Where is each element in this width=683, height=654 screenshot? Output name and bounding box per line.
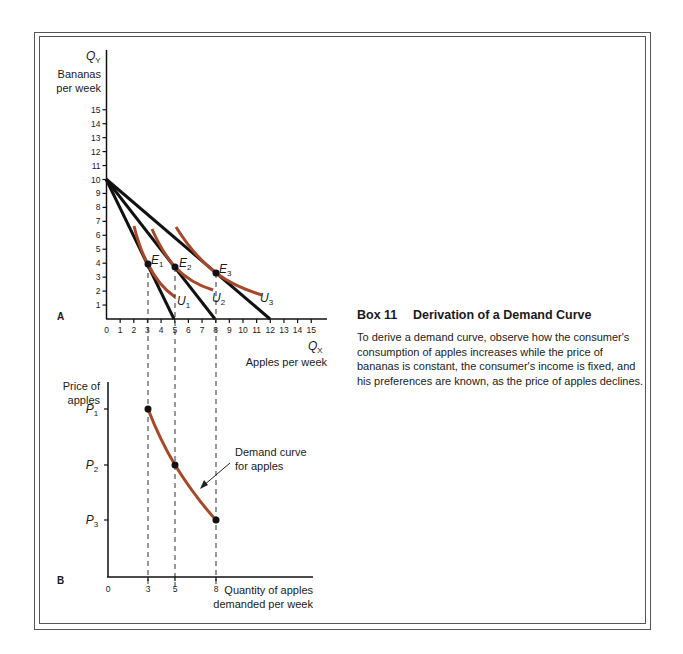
x-axis-label: Apples per week [246, 356, 328, 368]
label-e2: E2 [179, 256, 192, 272]
label-u3: U3 [260, 291, 274, 307]
panel-a-label: A [57, 311, 64, 322]
x-tick-label: 2 [131, 325, 136, 335]
label-u1: U1 [177, 294, 191, 310]
label-q3: 3 [146, 584, 151, 594]
caption-title: Box 11Derivation of a Demand Curve [357, 308, 647, 322]
label-q0: 0 [106, 584, 111, 594]
x-tick-label: 12 [266, 325, 276, 335]
y-tick-label: 7 [96, 216, 101, 226]
y-tick-label: 8 [96, 202, 101, 212]
x-axis-symbol: QX [308, 339, 323, 355]
price-axis-label-line1: Price of [63, 380, 101, 392]
y-tick-label: 4 [96, 258, 101, 268]
x-tick-label: 7 [200, 325, 205, 335]
label-q5: 5 [173, 584, 178, 594]
y-tick-label: 1 [96, 300, 101, 310]
y-ticks: 123456789101112131415 [91, 105, 106, 310]
y-tick-label: 10 [91, 175, 101, 185]
x-tick-label: 9 [227, 325, 232, 335]
quantity-axis-label-line2: demanded per week [213, 598, 313, 610]
label-u2: U2 [212, 291, 226, 307]
y-axis-label-line2: per week [56, 82, 101, 94]
y-tick-label: 13 [91, 133, 101, 143]
x-tick-label: 14 [293, 325, 303, 335]
y-tick-label: 2 [96, 286, 101, 296]
caption-body: To derive a demand curve, observe how th… [357, 330, 647, 388]
x-tick-label: 1 [118, 325, 123, 335]
label-p3: P3 [86, 513, 99, 529]
annotation-line2: for apples [235, 460, 284, 472]
x-tick-label: 13 [279, 325, 289, 335]
panel-a: QY Bananas per week 12345678910111213141… [56, 49, 327, 588]
annotation-line1: Demand curve [235, 446, 307, 458]
x-tick-label: 0 [104, 325, 109, 335]
caption-box: Box 11Derivation of a Demand Curve To de… [357, 308, 647, 388]
budget-line-3 [106, 179, 270, 319]
label-e1: E1 [151, 253, 164, 269]
demand-point-2 [172, 462, 179, 469]
y-tick-label: 15 [91, 105, 101, 115]
demand-point-1 [145, 406, 152, 413]
y-axis-symbol: QY [86, 49, 101, 65]
price-axis-label-line2: apples [68, 394, 101, 406]
label-e3: E3 [219, 262, 232, 278]
demand-curve [148, 409, 216, 520]
y-axis-label-line1: Bananas [58, 68, 102, 80]
arrow-head-icon [200, 480, 208, 489]
y-tick-label: 5 [96, 244, 101, 254]
x-tick-label: 4 [159, 325, 164, 335]
panel-b: Price of apples P1 P2 P3 0 3 5 8 Quantit… [57, 380, 313, 610]
point-e2 [172, 264, 179, 271]
x-tick-label: 6 [186, 325, 191, 335]
y-tick-label: 3 [96, 272, 101, 282]
x-ticks: 0123456789101112131415 [104, 319, 316, 335]
panel-b-label: B [57, 575, 64, 586]
label-p2: P2 [86, 458, 99, 474]
y-tick-label: 9 [96, 188, 101, 198]
y-tick-label: 14 [91, 119, 101, 129]
box-title-text: Derivation of a Demand Curve [413, 308, 592, 322]
x-tick-label: 15 [307, 325, 317, 335]
x-tick-label: 11 [252, 325, 261, 335]
box-number: Box 11 [357, 308, 413, 322]
quantity-axis-label-line1: Quantity of apples [224, 584, 313, 596]
y-tick-label: 6 [96, 230, 101, 240]
x-tick-label: 10 [238, 325, 248, 335]
demand-point-3 [213, 517, 220, 524]
y-tick-label: 12 [91, 147, 101, 157]
label-q8: 8 [214, 584, 219, 594]
y-tick-label: 11 [92, 161, 101, 171]
